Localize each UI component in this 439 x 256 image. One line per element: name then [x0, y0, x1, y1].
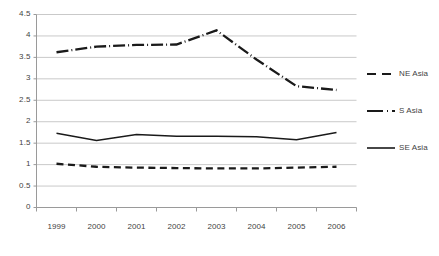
y-tick-label: 2 — [26, 116, 31, 125]
x-tick-label: 2000 — [77, 222, 117, 231]
y-tick-label: 1.5 — [19, 138, 30, 147]
x-tick-label: 2006 — [317, 222, 357, 231]
legend-swatch-dashed — [366, 68, 396, 80]
legend-label-se-asia: SE Asia — [399, 143, 428, 152]
gridlines — [37, 15, 357, 208]
series-line-s-asia — [57, 30, 337, 90]
y-tick-label: 0.5 — [19, 181, 30, 190]
legend-swatch-dash-dot — [366, 105, 396, 117]
legend-item-ne-asia[interactable]: NE Asia — [366, 68, 439, 80]
line-chart: 00.511.522.533.544.5 1999200020012002200… — [0, 0, 439, 256]
legend-item-se-asia[interactable]: SE Asia — [366, 142, 439, 154]
x-tick-label: 2002 — [157, 222, 197, 231]
x-tick-label: 1999 — [37, 222, 77, 231]
x-tick-label: 2005 — [277, 222, 317, 231]
x-axis-ticks — [37, 208, 357, 212]
y-tick-label: 2.5 — [19, 95, 30, 104]
y-tick-label: 3.5 — [19, 52, 30, 61]
legend-swatch-solid — [366, 142, 396, 154]
y-tick-label: 4 — [26, 30, 31, 39]
y-tick-label: 1 — [26, 159, 31, 168]
legend-label-s-asia: S Asia — [399, 106, 422, 115]
legend-item-s-asia[interactable]: S Asia — [366, 105, 439, 117]
y-tick-label: 3 — [26, 73, 31, 82]
x-tick-label: 2001 — [117, 222, 157, 231]
legend-label-ne-asia: NE Asia — [399, 69, 428, 78]
x-tick-label: 2003 — [197, 222, 237, 231]
series-line-se-asia — [57, 132, 337, 140]
chart-legend: NE Asia S Asia SE Asia — [366, 68, 439, 179]
axis-lines — [34, 15, 357, 208]
y-tick-label: 0 — [26, 202, 31, 211]
series-lines — [57, 30, 337, 168]
x-tick-label: 2004 — [237, 222, 277, 231]
y-tick-label: 4.5 — [19, 9, 30, 18]
